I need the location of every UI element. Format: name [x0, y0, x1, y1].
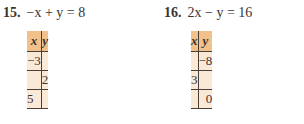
table-row: 3	[191, 71, 212, 90]
table-header-row: x y	[27, 31, 48, 52]
table-row: 5	[27, 90, 48, 109]
problem-number: 15.	[3, 5, 21, 20]
problem-number: 16.	[164, 5, 182, 20]
table-row: 0	[191, 90, 212, 109]
y-cell: 2	[41, 71, 48, 90]
y-cell: 0	[198, 90, 212, 109]
x-cell	[191, 90, 198, 109]
header-x: x	[27, 31, 41, 52]
x-cell: 3	[191, 71, 198, 90]
x-cell	[191, 52, 198, 71]
table-row: −3	[27, 52, 48, 71]
equation: −x + y = 8	[27, 5, 86, 20]
value-table: x y −8 3 0	[191, 31, 212, 109]
y-cell	[41, 90, 48, 109]
header-x: x	[191, 31, 198, 52]
x-cell: −3	[27, 52, 41, 71]
header-y: y	[41, 31, 48, 52]
y-cell	[41, 52, 48, 71]
table-row: −8	[191, 52, 212, 71]
x-cell	[27, 71, 41, 90]
problem-heading: 16.2x − y = 16	[164, 5, 252, 21]
value-table: x y −3 2 5	[27, 31, 48, 109]
table-row: 2	[27, 71, 48, 90]
header-y: y	[198, 31, 212, 52]
y-cell	[198, 71, 212, 90]
problem-heading: 15.−x + y = 8	[3, 5, 85, 21]
equation: 2x − y = 16	[188, 5, 253, 20]
x-cell: 5	[27, 90, 41, 109]
y-cell: −8	[198, 52, 212, 71]
table-header-row: x y	[191, 31, 212, 52]
